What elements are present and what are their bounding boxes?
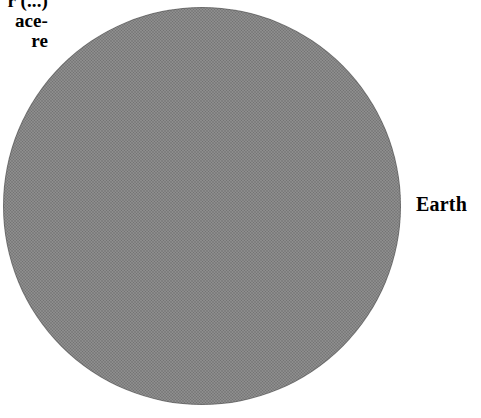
caption-label: r (...) ace- re: [0, 0, 48, 51]
caption-line-2: ace-: [0, 11, 48, 31]
earth-label: Earth: [416, 194, 467, 214]
figure-canvas: r (...) ace- re Earth: [0, 0, 481, 418]
earth-disc: [3, 7, 401, 405]
caption-line-3: re: [0, 31, 48, 51]
